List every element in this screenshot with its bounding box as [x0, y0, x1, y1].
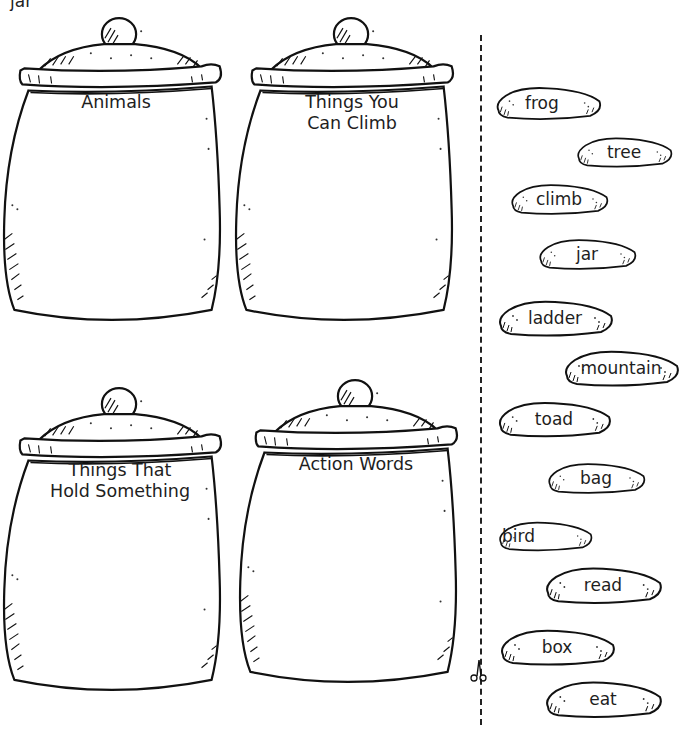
- word-card-label: tree: [574, 134, 674, 170]
- jar-label: Action Words: [236, 454, 476, 475]
- scissors-icon: [468, 660, 490, 682]
- word-card-bird[interactable]: bird: [496, 516, 594, 556]
- word-card-toad[interactable]: toad: [495, 398, 613, 440]
- word-card-frog[interactable]: frog: [493, 84, 603, 122]
- word-card-label: bird: [496, 516, 594, 556]
- jar-label-line: Things That: [0, 460, 240, 481]
- word-card-label: jar: [536, 236, 638, 272]
- word-card-label: climb: [508, 180, 610, 218]
- jar-illustration: [236, 370, 468, 692]
- word-card-label: bag: [545, 458, 647, 498]
- sort-jar-things-that-hold-something: Things That Hold Something: [0, 378, 232, 700]
- word-card-label: box: [497, 626, 617, 668]
- jar-label-line: Can Climb: [232, 113, 472, 134]
- jar-illustration: [0, 378, 232, 700]
- jar-label-line: Things You: [232, 92, 472, 113]
- jar-label: Animals: [0, 92, 232, 113]
- word-card-eat[interactable]: eat: [542, 678, 664, 720]
- jar-label-line: Hold Something: [0, 481, 240, 502]
- word-card-jar[interactable]: jar: [536, 236, 638, 272]
- word-card-label: frog: [493, 84, 603, 122]
- sort-jar-animals: Animals: [0, 8, 232, 330]
- word-card-tree[interactable]: tree: [574, 134, 674, 170]
- jar-illustration: [0, 8, 232, 330]
- cut-line-dashed: [480, 35, 482, 725]
- word-card-read[interactable]: read: [542, 564, 664, 606]
- jar-label-line: Animals: [0, 92, 232, 113]
- word-card-label: mountain: [560, 348, 682, 388]
- word-card-bag[interactable]: bag: [545, 458, 647, 498]
- jar-illustration: [232, 8, 464, 330]
- word-card-box[interactable]: box: [497, 626, 617, 668]
- word-card-ladder[interactable]: ladder: [495, 298, 615, 338]
- word-card-label: eat: [542, 678, 664, 720]
- word-card-mountain[interactable]: mountain: [560, 348, 682, 388]
- word-card-label: toad: [495, 398, 613, 440]
- jar-label: Things That Hold Something: [0, 460, 240, 502]
- sort-jar-action-words: Action Words: [236, 370, 468, 692]
- word-card-climb[interactable]: climb: [508, 180, 610, 218]
- jar-label-line: Action Words: [236, 454, 476, 475]
- jar-label: Things You Can Climb: [232, 92, 472, 134]
- sort-jar-things-you-can-climb: Things You Can Climb: [232, 8, 464, 330]
- word-card-label: ladder: [495, 298, 615, 338]
- word-card-label: read: [542, 564, 664, 606]
